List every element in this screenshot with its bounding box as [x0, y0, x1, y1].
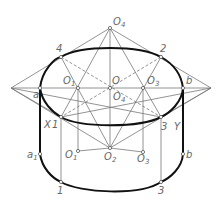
label-o3: O3 — [147, 75, 159, 88]
label-1-upper: 1 — [52, 119, 58, 130]
label-b: b — [186, 75, 192, 86]
label-point-2: 2 — [160, 43, 166, 54]
cylinder-outline — [40, 48, 183, 191]
label-o4-top: O4 — [113, 16, 125, 29]
label-o3-lower: O3 — [137, 153, 149, 166]
label-1-lower: 1 — [57, 185, 63, 196]
label-o1: O1 — [63, 75, 75, 88]
label-3-upper: 3 — [161, 121, 167, 132]
drawing-svg: O4 4 2 a b O O1 O3 O4 X 1 3 Y a1 O1 O2 O… — [0, 0, 219, 203]
label-a: a — [33, 89, 39, 100]
isometric-construction-drawing: O4 4 2 a b O O1 O3 O4 X 1 3 Y a1 O1 O2 O… — [0, 0, 219, 203]
label-b-lower: b — [186, 149, 192, 160]
label-a1: a1 — [27, 149, 38, 162]
label-y: Y — [174, 121, 181, 132]
label-o2: O2 — [104, 151, 117, 164]
label-3-lower: 3 — [158, 185, 164, 196]
label-o4-mid: O4 — [113, 91, 125, 104]
label-o1-lower: O1 — [65, 149, 77, 162]
label-x: X — [43, 119, 52, 130]
label-o-center: O — [112, 75, 120, 86]
label-point-4: 4 — [56, 43, 62, 54]
